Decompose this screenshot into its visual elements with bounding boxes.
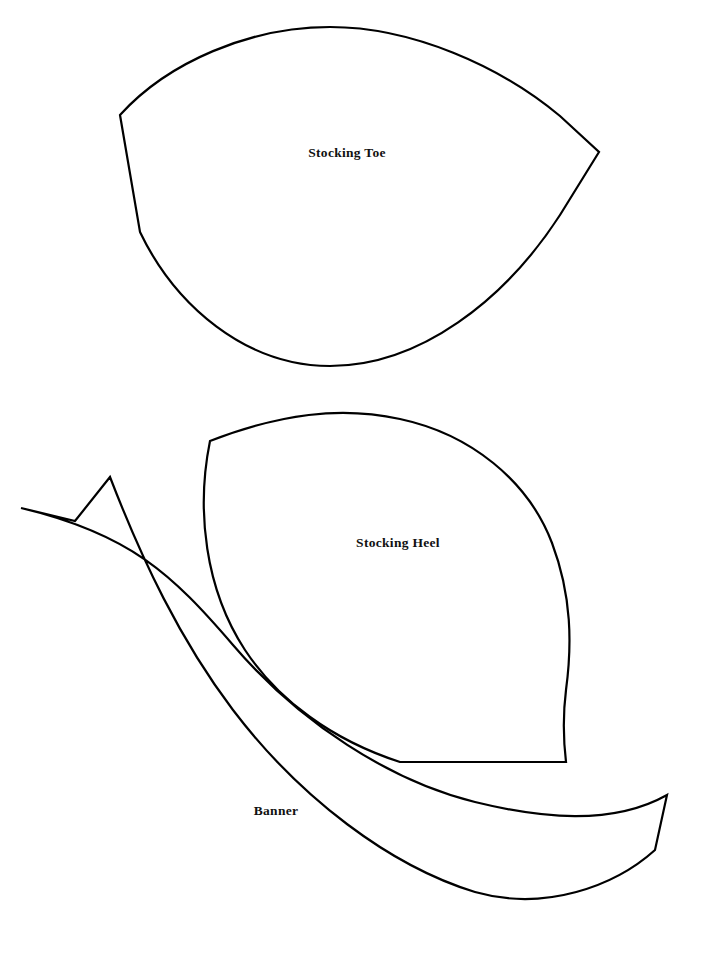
pattern-piece-stocking-toe[interactable]: Stocking Toe bbox=[120, 27, 599, 366]
stocking-heel-label: Stocking Heel bbox=[356, 535, 440, 550]
stocking-toe-outline[interactable] bbox=[120, 27, 599, 366]
pattern-sheet-page: Stocking Toe Stocking Heel Banner bbox=[0, 0, 708, 957]
stocking-toe-label: Stocking Toe bbox=[308, 145, 386, 160]
banner-label: Banner bbox=[254, 803, 299, 818]
pattern-canvas: Stocking Toe Stocking Heel Banner bbox=[0, 0, 708, 957]
